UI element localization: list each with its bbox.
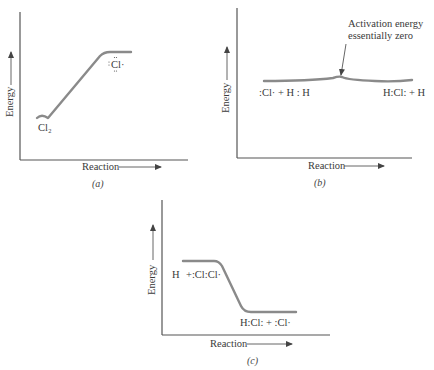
x-axis-label: Reaction	[308, 160, 346, 171]
species-label-start: +:Cl:Cl·	[186, 269, 221, 280]
species-label-end: Cl·	[111, 59, 124, 70]
y-axis-label: Energy	[220, 82, 231, 113]
species-label-start: Cl₂	[38, 122, 52, 133]
x-axis-label: Reaction	[210, 338, 248, 349]
reaction-energy-diagrams: Energy Cl₂ Cl· Reaction (a) Energy :Cl· …	[0, 0, 434, 370]
y-axis-label: Energy	[4, 86, 15, 117]
species-label-end: H:Cl: + :Cl·	[240, 317, 291, 328]
energy-curve	[264, 77, 412, 82]
y-axis-label: Energy	[146, 264, 157, 295]
panel-caption: (a)	[92, 178, 104, 190]
annotation-line1: Activation energy	[348, 18, 424, 29]
annotation-arrow-icon	[341, 44, 346, 75]
panel-caption: (b)	[314, 177, 326, 189]
x-axis-label: Reaction	[82, 161, 120, 172]
annotation-line2: essentially zero	[348, 30, 413, 41]
species-label-start-h: H	[172, 269, 180, 280]
panel-b: Energy :Cl· + H : H H:Cl: + H Activation…	[220, 8, 426, 189]
panel-c: Energy H +:Cl:Cl· H:Cl: + :Cl· Reaction …	[146, 200, 330, 367]
species-label-start: :Cl· + H : H	[259, 87, 310, 98]
species-label-end: H:Cl: + H	[383, 87, 426, 98]
panel-caption: (c)	[247, 355, 259, 367]
panel-a: Energy Cl₂ Cl· Reaction (a)	[4, 12, 188, 190]
